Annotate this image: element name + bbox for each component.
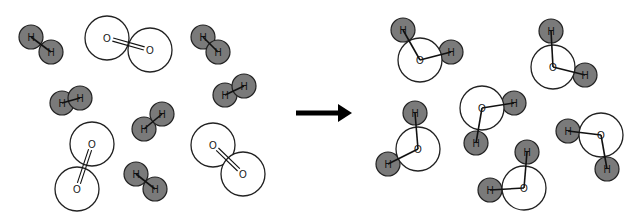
hydrogen-label: H [472,138,479,149]
h2-molecule: HH [213,74,256,107]
hydrogen-label: H [447,47,454,58]
hydrogen-label: H [384,159,391,170]
oxygen-label: O [73,184,81,195]
hydrogen-label: H [411,108,418,119]
hydrogen-label: H [240,81,247,92]
h2-molecule: HH [191,25,230,64]
hydrogen-label: H [399,25,406,36]
products-group: OHHOHHOHHOHHOHHOHH [376,18,623,210]
oxygen-label: O [414,144,422,155]
oxygen-label: O [88,139,96,150]
oxygen-label: O [520,183,528,194]
reaction-diagram: HHHHHHHHHHHHOOOOOO OHHOHHOHHOHHOHHOHH [0,0,639,222]
hydrogen-label: H [603,164,610,175]
oxygen-label: O [103,33,111,44]
hydrogen-label: H [581,70,588,81]
hydrogen-label: H [510,98,517,109]
h2o-molecule: OHH [531,19,597,89]
hydrogen-label: H [199,32,206,43]
hydrogen-label: H [486,185,493,196]
hydrogen-label: H [523,147,530,158]
oxygen-label: O [597,130,605,141]
hydrogen-label: H [58,98,65,109]
hydrogen-label: H [151,184,158,195]
hydrogen-label: H [547,26,554,37]
hydrogen-label: H [47,47,54,58]
h2-molecule: HH [124,162,167,201]
hydrogen-label: H [132,169,139,180]
h2o-molecule: OHH [478,140,546,210]
oxygen-label: O [478,103,486,114]
h2o-molecule: OHH [460,86,526,155]
h2o-molecule: OHH [556,113,623,181]
oxygen-label: O [549,62,557,73]
o2-molecule: OO [191,123,265,196]
h2-molecule: HH [132,102,174,141]
reactants-group: HHHHHHHHHHHHOOOOOO [19,16,265,211]
reaction-arrow-icon [296,104,352,122]
hydrogen-label: H [27,32,34,43]
h2-molecule: HH [50,86,92,115]
hydrogen-label: H [140,124,147,135]
oxygen-label: O [239,169,247,180]
o2-molecule: OO [85,16,172,72]
hydrogen-label: H [158,109,165,120]
h2o-molecule: OHH [391,18,463,82]
hydrogen-label: H [221,90,228,101]
arrow-head [338,104,352,122]
hydrogen-label: H [76,93,83,104]
oxygen-label: O [146,45,154,56]
oxygen-label: O [209,140,217,151]
oxygen-label: O [416,55,424,66]
h2o-molecule: OHH [376,101,440,176]
hydrogen-label: H [214,47,221,58]
hydrogen-label: H [564,126,571,137]
o2-molecule: OO [55,122,114,211]
h2-molecule: HH [19,25,63,64]
